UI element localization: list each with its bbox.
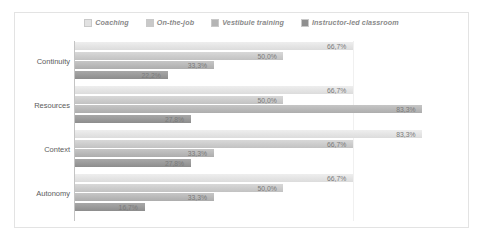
- bar-row: 33,3%: [75, 149, 470, 157]
- category-label-context: Context: [44, 145, 70, 154]
- bar-group: 66,7%50,0%83,3%27,8%: [75, 86, 470, 124]
- bar[interactable]: [75, 42, 353, 50]
- bar-row: 33,3%: [75, 193, 470, 201]
- legend-swatch-icon: [84, 19, 92, 27]
- bar-row: 50,0%: [75, 184, 470, 192]
- legend-label: Vestibule training: [222, 18, 284, 27]
- bar[interactable]: [75, 140, 353, 148]
- legend-item-3[interactable]: Instructor-led classroom: [301, 18, 399, 27]
- chart-legend: CoachingOn-the-jobVestibule trainingInst…: [15, 18, 468, 27]
- bar-value-label: 22,2%: [142, 71, 161, 78]
- bars-area: 66,7%50,0%33,3%22,2%66,7%50,0%83,3%27,8%…: [74, 39, 470, 229]
- bar-group: 83,3%66,7%33,3%27,8%: [75, 130, 470, 168]
- category-label-autonomy: Autonomy: [36, 189, 70, 198]
- bar[interactable]: [75, 52, 283, 60]
- bar[interactable]: [75, 96, 283, 104]
- legend-swatch-icon: [146, 19, 154, 27]
- bar-row: 66,7%: [75, 86, 470, 94]
- bar[interactable]: [75, 105, 422, 113]
- legend-label: Coaching: [95, 18, 129, 27]
- bar-row: 33,3%: [75, 61, 470, 69]
- bar[interactable]: [75, 184, 283, 192]
- bar[interactable]: [75, 130, 422, 138]
- bar-value-label: 16,7%: [119, 203, 138, 210]
- bar-row: 50,0%: [75, 96, 470, 104]
- bar-row: 27,8%: [75, 159, 470, 167]
- bar-row: 83,3%: [75, 130, 470, 138]
- bar[interactable]: [75, 86, 353, 94]
- legend-item-1[interactable]: On-the-job: [146, 18, 194, 27]
- bar-value-label: 27,8%: [165, 159, 184, 166]
- bar-value-label: 66,7%: [327, 87, 346, 94]
- plot-area: ContinuityResourcesContextAutonomy 66,7%…: [15, 39, 470, 229]
- bar-value-label: 83,3%: [396, 106, 415, 113]
- bar-value-label: 66,7%: [327, 43, 346, 50]
- bar-group: 66,7%50,0%33,3%16,7%: [75, 174, 470, 212]
- bar-value-label: 50,0%: [257, 184, 276, 191]
- bar-row: 66,7%: [75, 42, 470, 50]
- bar-value-label: 66,7%: [327, 140, 346, 147]
- bar[interactable]: [75, 174, 353, 182]
- legend-item-0[interactable]: Coaching: [84, 18, 129, 27]
- category-label-continuity: Continuity: [37, 57, 70, 66]
- bar-value-label: 33,3%: [188, 150, 207, 157]
- bar-value-label: 83,3%: [396, 131, 415, 138]
- chart-container: CoachingOn-the-jobVestibule trainingInst…: [14, 12, 469, 228]
- bar-value-label: 27,8%: [165, 115, 184, 122]
- legend-swatch-icon: [301, 19, 309, 27]
- bar-row: 27,8%: [75, 115, 470, 123]
- category-axis: ContinuityResourcesContextAutonomy: [15, 39, 74, 229]
- bar-row: 83,3%: [75, 105, 470, 113]
- bar-row: 50,0%: [75, 52, 470, 60]
- legend-item-2[interactable]: Vestibule training: [211, 18, 284, 27]
- bar-row: 66,7%: [75, 140, 470, 148]
- bar-row: 22,2%: [75, 71, 470, 79]
- bar-group: 66,7%50,0%33,3%22,2%: [75, 42, 470, 80]
- bar-value-label: 33,3%: [188, 194, 207, 201]
- bar-value-label: 50,0%: [257, 96, 276, 103]
- bar-value-label: 50,0%: [257, 52, 276, 59]
- legend-label: Instructor-led classroom: [312, 18, 399, 27]
- bar-value-label: 66,7%: [327, 175, 346, 182]
- legend-label: On-the-job: [157, 18, 194, 27]
- bar-value-label: 33,3%: [188, 62, 207, 69]
- bar-row: 16,7%: [75, 203, 470, 211]
- legend-swatch-icon: [211, 19, 219, 27]
- bar-row: 66,7%: [75, 174, 470, 182]
- category-label-resources: Resources: [34, 101, 70, 110]
